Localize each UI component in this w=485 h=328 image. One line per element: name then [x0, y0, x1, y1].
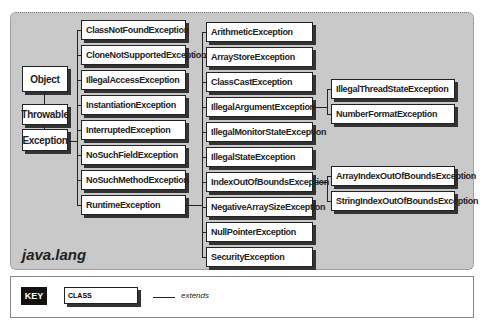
class-nosuchmethodexception: NoSuchMethodException: [81, 170, 186, 190]
connector: [77, 155, 81, 156]
connector: [202, 182, 206, 183]
class-classnotfoundexception: ClassNotFoundException: [81, 20, 186, 40]
connector: [202, 232, 206, 233]
connector: [77, 130, 81, 131]
class-arraystoreexception: ArrayStoreException: [206, 47, 313, 67]
class-indexoutofboundsexception: IndexOutOfBoundsException: [206, 172, 313, 192]
class-arithmeticexception: ArithmeticException: [206, 22, 313, 42]
connector: [44, 92, 45, 104]
class-illegalthreadstateexception: IllegalThreadStateException: [331, 79, 455, 99]
connector: [313, 182, 327, 183]
connector: [77, 105, 81, 106]
class-nullpointerexception: NullPointerException: [206, 222, 313, 242]
connector: [313, 107, 327, 108]
connector: [202, 82, 206, 83]
connector: [77, 180, 81, 181]
connector: [77, 55, 81, 56]
class-negativearraysizeexception: NegativeArraySizeException: [206, 197, 313, 217]
legend-key: KEY CLASS extends: [10, 276, 474, 318]
connector: [77, 30, 78, 205]
key-class-sample: CLASS: [64, 287, 138, 304]
connector: [202, 257, 206, 258]
class-securityexception: SecurityException: [206, 247, 313, 267]
class-classcastexception: ClassCastException: [206, 72, 313, 92]
package-label: java.lang: [22, 246, 86, 263]
class-illegalaccessexception: IllegalAccessException: [81, 70, 186, 90]
key-label: KEY: [21, 287, 47, 305]
class-illegalstateexception: IllegalStateException: [206, 147, 313, 167]
class-runtimeexception: RuntimeException: [81, 195, 186, 215]
class-nosuchfieldexception: NoSuchFieldException: [81, 145, 186, 165]
class-clonenotsupportedexception: CloneNotSupportedException: [81, 45, 186, 65]
connector: [186, 205, 202, 206]
class-numberformatexception: NumberFormatException: [331, 104, 455, 124]
connector: [202, 132, 206, 133]
connector: [77, 205, 81, 206]
connector: [327, 89, 328, 114]
key-extends-line: [153, 297, 175, 298]
connector: [202, 32, 203, 258]
connector: [327, 176, 328, 201]
class-object: Object: [22, 66, 68, 92]
connector: [202, 57, 206, 58]
connector: [202, 157, 206, 158]
connector: [202, 207, 206, 208]
connector: [77, 30, 81, 31]
class-exception: Exception: [22, 129, 68, 151]
connector: [202, 32, 206, 33]
connector: [77, 80, 81, 81]
key-extends-label: extends: [181, 291, 209, 300]
class-arrayindexoutofboundsexception: ArrayIndexOutOfBoundsException: [331, 166, 455, 186]
class-throwable: Throwable: [22, 104, 68, 125]
class-stringindexoutofboundsexception: StringIndexOutOfBoundsException: [331, 191, 455, 211]
class-illegalmonitorstateexception: IllegalMonitorStateException: [206, 122, 313, 142]
connector: [68, 141, 77, 142]
class-instantiationexception: InstantiationException: [81, 95, 186, 115]
class-interruptedexception: InterruptedException: [81, 120, 186, 140]
class-illegalargumentexception: IllegalArgumentException: [206, 97, 313, 117]
connector: [202, 107, 206, 108]
